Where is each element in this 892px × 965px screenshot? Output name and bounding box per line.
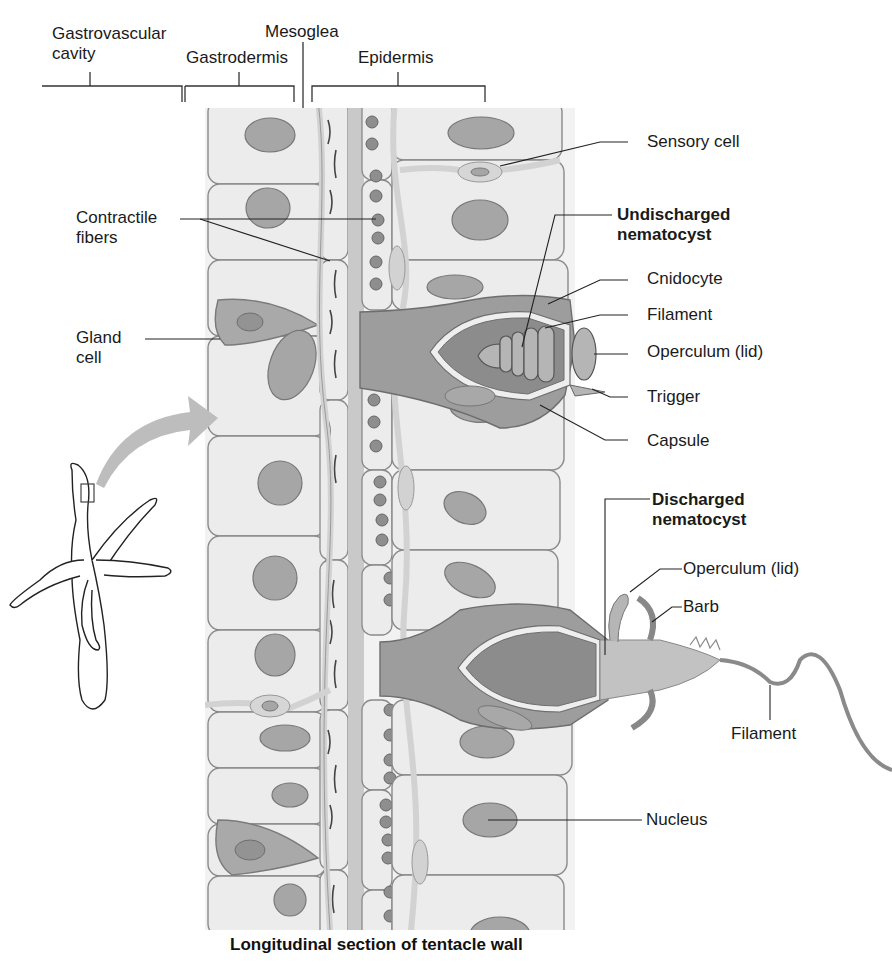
hydra-sketch <box>10 463 171 709</box>
gland-cell-nucleus <box>237 313 263 331</box>
discharged-spines <box>690 637 720 650</box>
label-contractile-line1: Contractile <box>76 208 157 228</box>
label-contractile-fibers: Contractile fibers <box>76 208 157 248</box>
figure-caption: Longitudinal section of tentacle wall <box>230 935 523 955</box>
label-epidermis: Epidermis <box>358 48 434 68</box>
label-gastrovascular-cavity: Gastrovascular cavity <box>52 24 166 64</box>
discharged-filament <box>720 654 892 770</box>
cnidocyte-nucleus <box>445 386 495 406</box>
tentacle-wall-diagram <box>0 0 892 965</box>
label-trigger: Trigger <box>647 387 700 407</box>
label-gastrovascular-line1: Gastrovascular <box>52 24 166 44</box>
gland-cell-lower-nucleus <box>235 840 265 860</box>
discharged-barb-upper <box>638 598 653 640</box>
label-discharged-line1: Discharged <box>652 490 746 510</box>
label-contractile-line2: fibers <box>76 228 157 248</box>
label-undischarged-line2: nematocyst <box>617 225 730 245</box>
sensory-cell-gastro-nucleus <box>262 701 278 711</box>
zoom-arrow <box>96 396 218 488</box>
label-gland-line1: Gland <box>76 328 121 348</box>
label-undischarged-nematocyst: Undischarged nematocyst <box>617 205 730 245</box>
label-discharged-line2: nematocyst <box>652 510 746 530</box>
operculum-lid <box>572 328 596 380</box>
label-mesoglea: Mesoglea <box>265 22 339 42</box>
nerve-cell-body-3 <box>412 840 428 884</box>
label-gastrodermis: Gastrodermis <box>186 48 288 68</box>
label-capsule: Capsule <box>647 431 709 451</box>
label-gland-line2: cell <box>76 348 121 368</box>
label-operculum-undischarged: Operculum (lid) <box>647 342 763 362</box>
label-nucleus: Nucleus <box>646 810 707 830</box>
label-cnidocyte: Cnidocyte <box>647 269 723 289</box>
label-sensory-cell: Sensory cell <box>647 132 740 152</box>
trigger-cnidocil <box>570 385 605 396</box>
label-discharged-nematocyst: Discharged nematocyst <box>652 490 746 530</box>
discharged-operculum <box>609 594 629 642</box>
discharged-barb-lower <box>632 690 653 728</box>
sensory-cell-nucleus <box>471 168 489 176</box>
label-operculum-discharged: Operculum (lid) <box>683 559 799 579</box>
everted-tubule <box>600 640 720 700</box>
nerve-cell-body <box>389 246 405 290</box>
label-gland-cell: Gland cell <box>76 328 121 368</box>
label-filament-discharged: Filament <box>731 724 796 744</box>
label-gastrovascular-line2: cavity <box>52 44 166 64</box>
label-filament-undischarged: Filament <box>647 305 712 325</box>
label-undischarged-line1: Undischarged <box>617 205 730 225</box>
label-barb: Barb <box>683 597 719 617</box>
nerve-cell-body-2 <box>398 466 414 510</box>
